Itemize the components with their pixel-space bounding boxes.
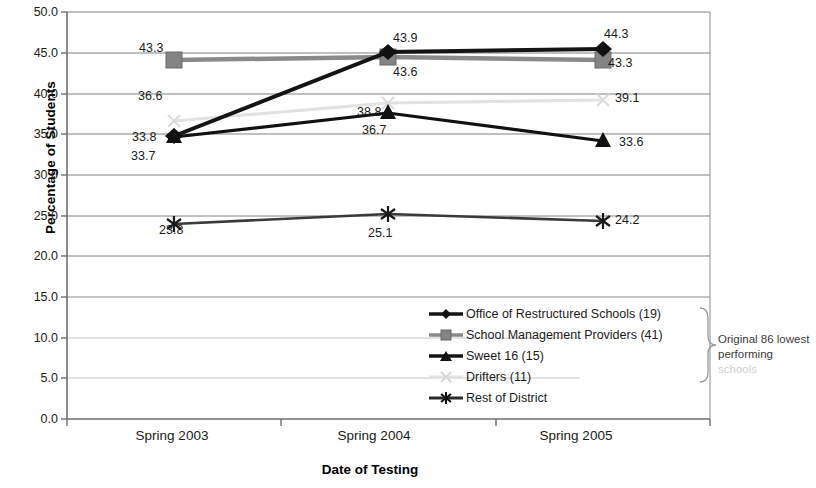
legend-item-school-management-providers[interactable]: School Management Providers (41) — [428, 324, 688, 345]
data-label: 43.6 — [393, 66, 417, 78]
square-marker-icon — [428, 328, 464, 342]
x-tick-label-spring-2005: Spring 2005 — [496, 428, 656, 443]
x-marker-icon — [428, 370, 464, 384]
y-tick-label: 25.0 — [6, 210, 58, 222]
data-label: 44.3 — [604, 28, 628, 40]
data-label: 43.3 — [139, 42, 163, 54]
y-tick-label: 45.0 — [6, 47, 58, 59]
triangle-marker-icon — [428, 349, 464, 363]
legend-annotation: Original 86 lowest performing schools — [718, 332, 816, 377]
data-label: 33.7 — [131, 150, 155, 162]
line-chart: Percentage of Students Date of Testing 5… — [0, 0, 816, 488]
legend-label: Drifters (11) — [466, 370, 531, 384]
data-label: 36.7 — [362, 124, 386, 136]
legend: Office of Restructured Schools (19) Scho… — [428, 303, 688, 408]
series-office-of-restructured-schools — [165, 41, 612, 144]
data-label: 43.3 — [608, 57, 632, 69]
y-tick-label: 10.0 — [6, 332, 58, 344]
x-tick-marks — [67, 419, 710, 426]
data-label: 25.1 — [368, 227, 392, 239]
legend-item-rest-of-district[interactable]: Rest of District — [428, 387, 688, 408]
x-tick-label-spring-2004: Spring 2004 — [294, 428, 454, 443]
annotation-line-1: Original 86 lowest — [718, 332, 816, 347]
legend-label: Office of Restructured Schools (19) — [466, 307, 661, 321]
y-tick-label: 30.0 — [6, 169, 58, 181]
x-tick-label-spring-2003: Spring 2003 — [92, 428, 252, 443]
legend-item-drifters[interactable]: Drifters (11) — [428, 366, 688, 387]
y-tick-label: 5.0 — [6, 372, 58, 384]
data-label: 33.8 — [132, 131, 156, 143]
legend-label: School Management Providers (41) — [466, 328, 663, 342]
y-tick-label: 35.0 — [6, 128, 58, 140]
series-drifters — [168, 94, 609, 127]
x-axis-title: Date of Testing — [0, 462, 740, 477]
data-label: 24.2 — [615, 214, 639, 226]
annotation-line-2: performing — [718, 347, 816, 362]
data-label: 39.1 — [615, 92, 639, 104]
data-label: 36.6 — [138, 90, 162, 102]
legend-label: Sweet 16 (15) — [466, 349, 544, 363]
legend-label: Rest of District — [466, 391, 547, 405]
y-tick-label: 15.0 — [6, 291, 58, 303]
legend-item-sweet-16[interactable]: Sweet 16 (15) — [428, 345, 688, 366]
legend-brace — [700, 308, 716, 382]
data-label: 33.6 — [619, 136, 643, 148]
y-tick-label: 20.0 — [6, 250, 58, 262]
series-sweet-16 — [166, 104, 611, 147]
y-tick-label: 40.0 — [6, 88, 58, 100]
data-label: 43.9 — [393, 32, 417, 44]
y-tick-label: 0.0 — [6, 413, 58, 425]
annotation-line-3: schools — [718, 362, 816, 377]
y-tick-label: 50.0 — [6, 6, 58, 18]
y-axis-title: Percentage of Students — [43, 48, 58, 268]
asterisk-marker-icon — [428, 391, 464, 405]
data-label: 23.8 — [159, 224, 183, 236]
series-school-management-providers — [166, 49, 611, 68]
legend-item-office-of-restructured-schools[interactable]: Office of Restructured Schools (19) — [428, 303, 688, 324]
data-label: 38.8 — [357, 106, 381, 118]
diamond-marker-icon — [428, 307, 464, 321]
y-tick-marks — [61, 12, 67, 419]
